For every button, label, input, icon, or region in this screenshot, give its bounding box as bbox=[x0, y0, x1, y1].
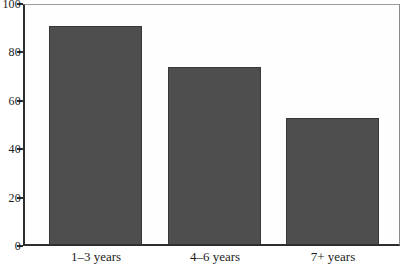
bar-1 bbox=[49, 26, 142, 244]
y-axis-tick-label: 100 bbox=[0, 0, 21, 10]
bar-3 bbox=[286, 118, 379, 244]
x-axis-category-label: 4–6 years bbox=[155, 249, 275, 265]
y-axis-tick-label: 20 bbox=[0, 192, 21, 204]
y-axis-tick-label: 40 bbox=[0, 143, 21, 155]
y-axis-tick-label: 60 bbox=[0, 95, 21, 107]
bar-2 bbox=[168, 67, 261, 244]
y-axis-tick-label: 80 bbox=[0, 46, 21, 58]
y-axis-tick-label: 0 bbox=[0, 240, 21, 252]
x-axis-category-label: 7+ years bbox=[273, 249, 393, 265]
plot-area bbox=[23, 4, 400, 246]
bar-chart-figure: 020406080100 1–3 years4–6 years7+ years bbox=[0, 0, 408, 275]
x-axis-category-label: 1–3 years bbox=[36, 249, 156, 265]
